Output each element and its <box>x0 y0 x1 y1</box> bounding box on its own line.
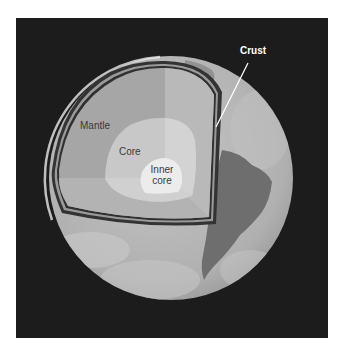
label-crust: Crust <box>240 45 266 56</box>
label-inner-core: Inner core <box>147 164 177 186</box>
label-inner-core-line1: Inner <box>147 164 177 175</box>
label-mantle: Mantle <box>80 120 110 131</box>
label-inner-core-line2: core <box>147 175 177 186</box>
label-core: Core <box>119 146 141 157</box>
